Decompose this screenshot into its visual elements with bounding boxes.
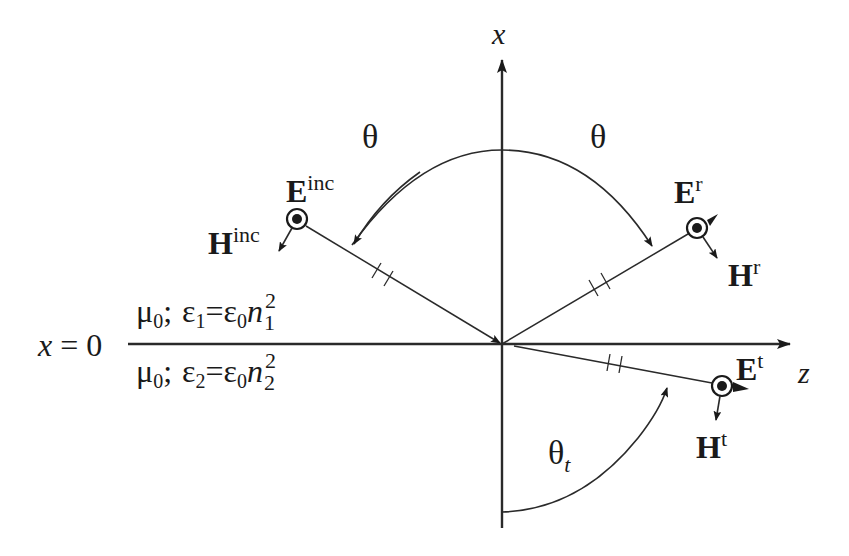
hash-mark — [619, 356, 622, 373]
theta-incident-label: θ — [362, 118, 378, 155]
h-inc-label: Hinc — [208, 222, 260, 261]
h-r-label: Hr — [728, 254, 761, 293]
z-axis-label: z — [797, 356, 810, 389]
transmitted-field: Et Ht — [696, 348, 763, 465]
reflected-ray — [502, 234, 688, 344]
hash-mark — [607, 354, 610, 371]
h-t-label: Ht — [696, 426, 727, 465]
interface-label: x = 0 — [37, 327, 102, 363]
reflection-refraction-diagram: x z x = 0 μ0;ε1=ε0n21 μ0;ε2=ε0n22 θ θ θt — [0, 0, 849, 556]
theta-t-label: θt — [548, 434, 571, 477]
incident-field: Einc Hinc — [208, 170, 334, 261]
h-field-arrow-icon — [703, 237, 717, 258]
incident-ray — [306, 226, 500, 343]
medium-1-label: μ0;ε1=ε0n21 — [136, 288, 276, 335]
medium-2-label: μ0;ε2=ε0n22 — [136, 348, 276, 395]
theta-t-arc — [502, 388, 667, 512]
h-field-arrow-icon — [279, 228, 292, 251]
theta-reflected-label: θ — [590, 118, 606, 155]
h-field-arrow-icon — [716, 396, 720, 420]
x-axis-label: x — [491, 17, 506, 50]
transmitted-ray — [514, 346, 712, 383]
reflected-field: Er Hr — [674, 171, 761, 293]
propagation-arrowhead-icon — [707, 214, 718, 226]
e-t-label: Et — [736, 348, 763, 387]
e-r-label: Er — [674, 171, 703, 210]
e-inc-label: Einc — [286, 170, 334, 209]
